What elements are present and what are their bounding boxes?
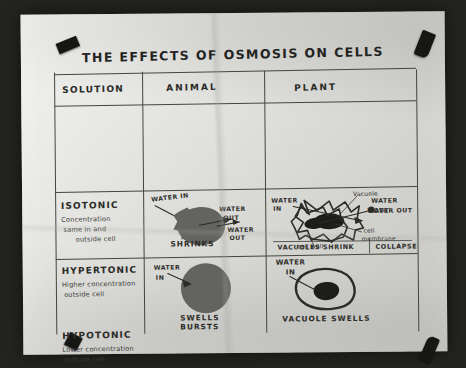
table-rule-col-animal-plant bbox=[264, 71, 267, 333]
caption-collapse: COLLAPSE bbox=[376, 242, 418, 251]
label-water-in-line2-hypotonic-animal: IN bbox=[156, 274, 165, 282]
table-rule-under-header bbox=[54, 100, 416, 107]
photograph-frame: THE EFFECTS OF OSMOSIS ON CELLS SOLUTION… bbox=[0, 0, 466, 368]
caption-bursts: BURSTS bbox=[180, 322, 219, 332]
label-water-out-line1-hypertonic-animal: WATER bbox=[219, 205, 246, 213]
label-water-in-line2-hypotonic-plant: IN bbox=[286, 268, 296, 277]
caption-vacuole-swells: VACUOLE SWELLS bbox=[282, 314, 370, 324]
diagram-hypertonic-plant: WATER OUT VACUOLES SHRINK COLLAPSE bbox=[271, 194, 418, 257]
solution-description-hypotonic: Lower concentration outside cell bbox=[62, 343, 144, 365]
poster-paper: THE EFFECTS OF OSMOSIS ON CELLS SOLUTION… bbox=[21, 11, 448, 355]
row-hypotonic-solution-cell: HYPOTONIC Lower concentration outside ce… bbox=[62, 329, 145, 365]
label-water-in-line1-hypotonic-animal: WATER bbox=[154, 263, 181, 271]
solution-term-hypertonic: HYPERTONIC bbox=[62, 264, 144, 276]
diagram-hypotonic-animal: WATER IN SWELLS BURSTS bbox=[152, 261, 265, 334]
row-isotonic-solution-cell: ISOTONIC Concentration same in and outsi… bbox=[61, 199, 144, 245]
solution-term-hypotonic: HYPOTONIC bbox=[62, 329, 144, 341]
diagram-hypotonic-plant: WATER IN VACUOLE SWELLS bbox=[274, 257, 421, 332]
table-rule-top bbox=[54, 68, 416, 76]
column-header-animal: ANIMAL bbox=[166, 82, 218, 93]
label-water-out-line1-hypertonic-plant: WATER bbox=[371, 197, 398, 205]
caption-shrinks: SHRINKS bbox=[159, 239, 225, 249]
tape-bottom-right bbox=[419, 335, 440, 364]
label-water-in-line1-hypotonic-plant: WATER bbox=[276, 258, 306, 267]
isotonic-desc-line-3: outside cell bbox=[62, 234, 144, 246]
column-header-solution: SOLUTION bbox=[62, 84, 124, 95]
label-water-out-line2-hypertonic-plant: OUT bbox=[373, 207, 389, 215]
hypertonic-desc-line-2: outside cell bbox=[62, 289, 144, 301]
row-hypertonic-solution-cell: HYPERTONIC Higher concentration outside … bbox=[62, 264, 145, 300]
label-water-out-line2-hypertonic-animal: OUT bbox=[223, 214, 239, 222]
osmosis-table: SOLUTION ANIMAL PLANT ISOTONIC Concentra… bbox=[54, 69, 418, 334]
solution-description-isotonic: Concentration same in and outside cell bbox=[61, 213, 144, 245]
poster-title: THE EFFECTS OF OSMOSIS ON CELLS bbox=[21, 43, 445, 67]
solution-term-isotonic: ISOTONIC bbox=[61, 199, 143, 211]
column-header-plant: PLANT bbox=[294, 82, 337, 93]
table-rule-left bbox=[54, 73, 57, 335]
caption-vacuoles-shrink: VACUOLES SHRINK bbox=[278, 243, 355, 252]
diagram-hypertonic-animal: WATER OUT SHRINKS bbox=[153, 197, 264, 258]
solution-description-hypertonic: Higher concentration outside cell bbox=[62, 278, 144, 300]
hypotonic-desc-line-2: outside cell bbox=[63, 354, 145, 366]
